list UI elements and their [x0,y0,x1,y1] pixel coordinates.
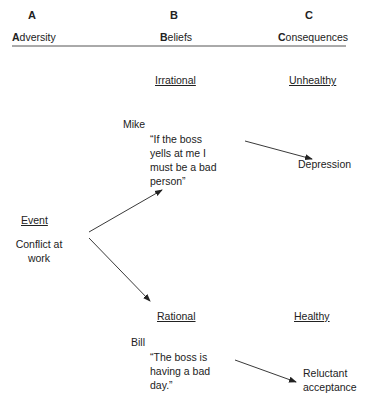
arrow-rational-to-acceptance [235,360,296,382]
arrow-event-to-rational [89,238,150,301]
arrow-irrational-to-depression [245,141,312,159]
diagram-connectors [0,0,368,403]
arrow-event-to-irrational [89,190,162,232]
